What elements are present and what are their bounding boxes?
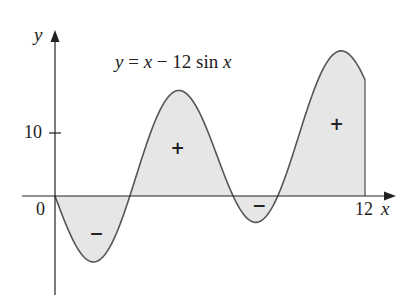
plus-sign-icon: + xyxy=(171,138,185,158)
y-tick-label-10: 10 xyxy=(24,122,42,143)
x-axis-label: x xyxy=(381,198,389,220)
chart-canvas: −+−+ xyxy=(0,0,413,305)
plus-sign-icon: + xyxy=(329,114,343,134)
equation-minus-sin: − 12 sin xyxy=(152,51,223,72)
equation-x: x xyxy=(144,51,152,72)
equation-label: y = x − 12 sin x xyxy=(115,51,231,73)
y-axis-label: y xyxy=(34,24,42,46)
x-tick-label-12: 12 xyxy=(355,199,373,220)
y-axis-arrow-icon xyxy=(51,30,60,42)
equation-x2: x xyxy=(223,51,231,72)
minus-sign-icon: − xyxy=(252,195,266,215)
minus-sign-icon: − xyxy=(89,223,103,243)
origin-label: 0 xyxy=(36,199,45,220)
equation-equals: = xyxy=(123,51,143,72)
